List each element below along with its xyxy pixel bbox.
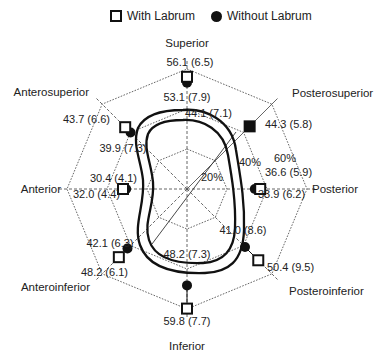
value-label-with-anterosuperior: 43.7 (6.6): [63, 113, 110, 125]
value-label-without-anterior: 30.4 (4.1): [90, 172, 137, 184]
value-label-without-anteroinferior: 42.1 (6.3): [86, 237, 133, 249]
without-labrum-marker-inferior: [182, 280, 192, 290]
radar-chart: 56.1 (6.5)53.1 (7.9)44.3 (5.8)44.1 (7.1)…: [0, 0, 375, 357]
ring-label-20: 20%: [201, 171, 223, 183]
axis-label-inferior: Inferior: [169, 340, 205, 352]
value-label-with-posterosuperior: 44.3 (5.8): [265, 118, 312, 130]
value-label-without-posterior: 33.9 (6.2): [258, 188, 305, 200]
with-labrum-marker-posterosuperior: [245, 121, 255, 131]
with-labrum-marker-inferior: [182, 304, 192, 314]
with-labrum-marker-anterosuperior: [120, 122, 130, 132]
ring-label-60: 60%: [274, 152, 296, 164]
without-labrum-marker-posteroinferior: [240, 242, 250, 252]
value-label-without-superior: 53.1 (7.9): [163, 91, 210, 103]
ring-label-40: 40%: [239, 156, 261, 168]
with-labrum-marker-superior: [182, 72, 192, 82]
with-labrum-marker-anteroinferior: [114, 252, 124, 262]
axis-label-anteroinferior: Anteroinferior: [21, 281, 90, 293]
axis-label-posteroinferior: Posteroinferior: [289, 285, 364, 297]
axis-label-superior: Superior: [165, 37, 209, 49]
axis-labels: SuperiorPosterosuperiorPosteriorPosteroi…: [14, 37, 374, 352]
with-labrum-marker-posteroinferior: [253, 255, 263, 265]
axis-label-anterior: Anterior: [21, 183, 61, 195]
value-label-with-posteroinferior: 50.4 (9.5): [267, 261, 314, 273]
value-label-with-inferior: 59.8 (7.7): [163, 315, 210, 327]
value-label-without-inferior: 48.2 (7.3): [163, 248, 210, 260]
value-label-with-posterior: 36.6 (5.9): [265, 166, 312, 178]
axis-label-anterosuperior: Anterosuperior: [14, 86, 90, 98]
value-label-with-anteroinferior: 48.2 (6.1): [81, 266, 128, 278]
value-label-without-posteroinferior: 41.0 (8.6): [219, 224, 266, 236]
axis-label-posterior: Posterior: [312, 183, 358, 195]
axis-label-posterosuperior: Posterosuperior: [292, 87, 373, 99]
value-label-with-superior: 56.1 (6.5): [166, 56, 213, 68]
value-label-without-posterosuperior: 44.1 (7.1): [185, 107, 232, 119]
value-label-with-anterior: 32.0 (4.4): [73, 188, 120, 200]
inner-contour: [146, 120, 235, 263]
value-label-without-anterosuperior: 39.9 (7.3): [99, 142, 146, 154]
